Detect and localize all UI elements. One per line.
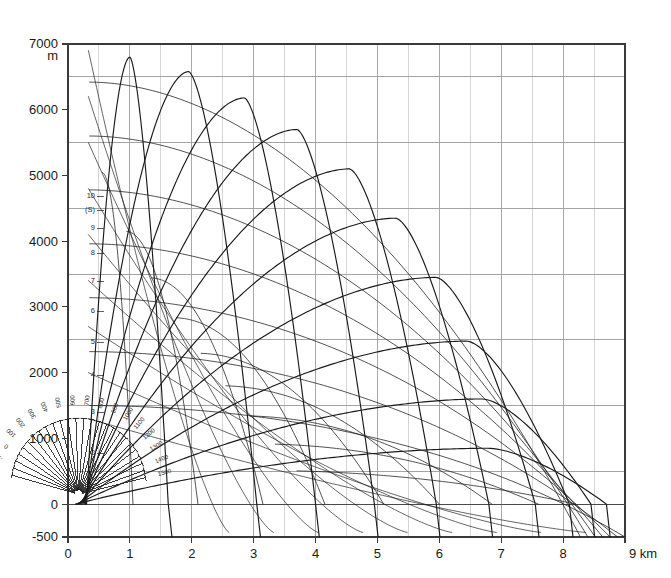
y-axis-tick-label: 0 <box>51 497 58 512</box>
x-axis-tick-label: 7 <box>498 546 505 561</box>
chart-background <box>0 0 671 578</box>
x-axis-tick-label: 9 km <box>629 546 657 561</box>
fan-elevation-label: 5 <box>91 337 95 346</box>
x-axis-tick-label: 1 <box>126 546 133 561</box>
fan-elevation-label: 3 <box>91 407 95 416</box>
y-axis-tick-label: 2000 <box>29 365 58 380</box>
chart-svg: 1500140013001200110010009008007006005004… <box>0 0 671 578</box>
fan-elevation-label: 8 <box>91 248 95 257</box>
fan-elevation-label: 10 <box>87 191 95 200</box>
y-axis-tick-label: 3000 <box>29 299 58 314</box>
fan-elevation-label: 7 <box>91 276 95 285</box>
fan-range-label: 700 <box>83 394 91 405</box>
y-axis-tick-label: 1000 <box>29 431 58 446</box>
y-axis-tick-label: 5000 <box>29 168 58 183</box>
ballistic-trajectory-chart: 1500140013001200110010009008007006005004… <box>0 0 671 578</box>
y-axis-tick-label: 6000 <box>29 102 58 117</box>
y-axis-tick-label: -500 <box>32 529 58 544</box>
fan-range-label: 600 <box>68 394 76 405</box>
y-axis-tick-label: 4000 <box>29 234 58 249</box>
x-axis-tick-label: 0 <box>64 546 71 561</box>
fan-elevation-label: 2 <box>91 448 95 457</box>
y-axis-unit-label: m <box>47 48 58 63</box>
x-axis-tick-label: 2 <box>188 546 195 561</box>
fan-elevation-label: (S) <box>85 205 96 214</box>
fan-elevation-label: 6 <box>91 306 95 315</box>
x-axis-tick-label: 4 <box>312 546 319 561</box>
fan-elevation-label: 4 <box>91 370 95 379</box>
x-axis-tick-label: 6 <box>436 546 443 561</box>
fan-elevation-label: 9 <box>91 223 95 232</box>
x-axis-tick-label: 5 <box>374 546 381 561</box>
x-axis-tick-label: 3 <box>250 546 257 561</box>
x-axis-tick-label: 8 <box>559 546 566 561</box>
